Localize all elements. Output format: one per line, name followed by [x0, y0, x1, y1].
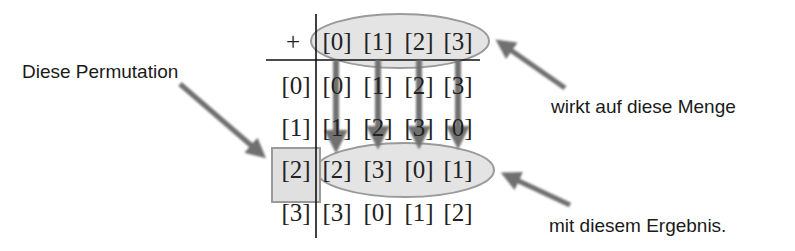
table-operator: +	[271, 25, 315, 59]
table-cell: [1]	[315, 111, 359, 145]
table-cell: [2]	[397, 69, 441, 103]
result-pointer-arrow-icon	[508, 176, 570, 205]
row-header: [0]	[274, 69, 318, 103]
table-cell: [3]	[397, 111, 441, 145]
result-label: mit diesem Ergebnis.	[549, 215, 726, 237]
table-cell: [2]	[436, 196, 480, 230]
column-header: [3]	[436, 25, 480, 59]
table-cell: [1]	[397, 196, 441, 230]
result-cell: [1]	[436, 153, 480, 187]
column-header: [0]	[315, 25, 359, 59]
table-cell: [0]	[315, 69, 359, 103]
table-cell: [1]	[356, 69, 400, 103]
row-header: [3]	[274, 196, 318, 230]
permutation-label: Diese Permutation	[22, 61, 178, 83]
column-header: [1]	[356, 25, 400, 59]
result-cell: [2]	[315, 153, 359, 187]
table-cell: [2]	[356, 111, 400, 145]
table-cell: [3]	[436, 69, 480, 103]
table-cell: [0]	[436, 111, 480, 145]
row-header: [1]	[274, 111, 318, 145]
table-cell: [3]	[315, 196, 359, 230]
set-label: wirkt auf diese Menge	[551, 96, 736, 118]
column-header: [2]	[397, 25, 441, 59]
cayley-table-diagram: + [0] [1] [2] [3] [0] [1] [2] [3] [0] [1…	[0, 0, 795, 251]
result-cell: [0]	[397, 153, 441, 187]
row-header-highlighted: [2]	[274, 153, 318, 187]
set-pointer-arrow-icon	[502, 44, 565, 88]
table-cell: [0]	[356, 196, 400, 230]
result-cell: [3]	[356, 153, 400, 187]
permutation-pointer-arrow-icon	[180, 84, 260, 153]
